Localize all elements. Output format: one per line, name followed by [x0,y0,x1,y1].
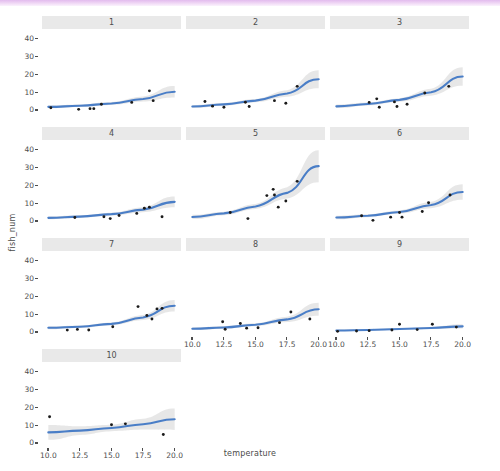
data-point [49,106,52,109]
data-point [135,212,138,215]
data-point [455,326,458,329]
x-tick-label: 20.0 [162,452,188,460]
data-point [145,314,148,317]
data-point [77,108,80,111]
x-tick-label: 10.0 [323,341,349,349]
data-point [277,206,280,209]
y-tick-label: 0 [8,439,34,447]
data-point [372,219,375,222]
data-point [449,194,452,197]
facet-panel-1 [42,32,181,114]
y-tick-label: 10 [8,89,34,97]
data-point [278,321,281,324]
facet-panel-9 [330,254,469,336]
data-point [150,318,153,321]
x-tick-label: 10.0 [179,341,205,349]
data-point [296,85,299,88]
data-point [396,105,399,108]
y-axis-title: fish_num [8,203,17,263]
data-point [148,206,151,209]
y-tick-label: 30 [8,275,34,283]
facet-strip-label-8: 8 [186,238,325,251]
data-point [224,328,227,331]
data-point [239,322,242,325]
x-tick-label: 15.0 [243,341,269,349]
facet-strip-label-6: 6 [330,127,469,140]
x-tick-label: 12.5 [67,452,93,460]
data-point [257,326,260,329]
data-point [401,216,404,219]
facet-strip-label-4: 4 [42,127,181,140]
confidence-ribbon [192,150,318,219]
data-point [109,217,112,220]
data-point [284,102,287,105]
data-point [152,99,155,102]
y-tick-label: 0 [8,328,34,336]
data-point [161,307,164,310]
facet-panel-7 [42,254,181,336]
data-point [87,328,90,331]
y-tick-label: 30 [8,386,34,394]
data-point [92,107,95,110]
data-point [447,85,450,88]
y-tick-label: 40 [8,35,34,43]
facet-strip-label-9: 9 [330,238,469,251]
data-point [124,422,127,425]
data-point [368,329,371,332]
confidence-ribbon [48,196,174,219]
confidence-ribbon [336,184,462,219]
data-point [389,216,392,219]
data-point [398,323,401,326]
data-point [272,188,275,191]
data-point [245,327,248,330]
data-point [289,310,292,313]
data-point [273,99,276,102]
data-point [156,307,159,310]
data-point [393,100,396,103]
data-point [229,211,232,214]
data-point [296,180,299,183]
facet-strip-label-5: 5 [186,127,325,140]
data-point [416,328,419,331]
data-point [273,194,276,197]
data-point [76,328,79,331]
facet-panel-3 [330,32,469,114]
y-tick-label: 10 [8,311,34,319]
data-point [162,433,165,436]
facet-panel-6 [330,143,469,225]
data-point [246,217,249,220]
data-point [355,330,358,333]
data-point [100,103,103,106]
data-point [48,415,51,418]
y-tick-label: 20 [8,404,34,412]
y-tick-label: 20 [8,71,34,79]
data-point [360,214,363,217]
x-tick-label: 17.5 [274,341,300,349]
y-tick-label: 0 [8,106,34,114]
y-tick-label: 30 [8,164,34,172]
x-tick-label: 12.5 [211,341,237,349]
data-point [265,194,268,197]
data-point [137,305,140,308]
y-tick-label: 40 [8,257,34,265]
data-point [427,201,430,204]
data-point [110,423,113,426]
data-point [378,106,381,109]
data-point [89,107,92,110]
y-tick-label: 20 [8,182,34,190]
data-point [375,97,378,100]
x-tick-label: 15.0 [387,341,413,349]
data-point [336,330,339,333]
facet-strip-label-7: 7 [42,238,181,251]
facet-panel-4 [42,143,181,225]
data-point [130,101,133,104]
data-point [390,328,393,331]
y-tick-label: 0 [8,217,34,225]
facet-strip-label-10: 10 [42,349,181,362]
data-point [431,323,434,326]
x-tick-label: 10.0 [35,452,61,460]
facet-panel-8 [186,254,325,336]
data-point [244,101,247,104]
data-point [421,210,424,213]
data-point [398,211,401,214]
